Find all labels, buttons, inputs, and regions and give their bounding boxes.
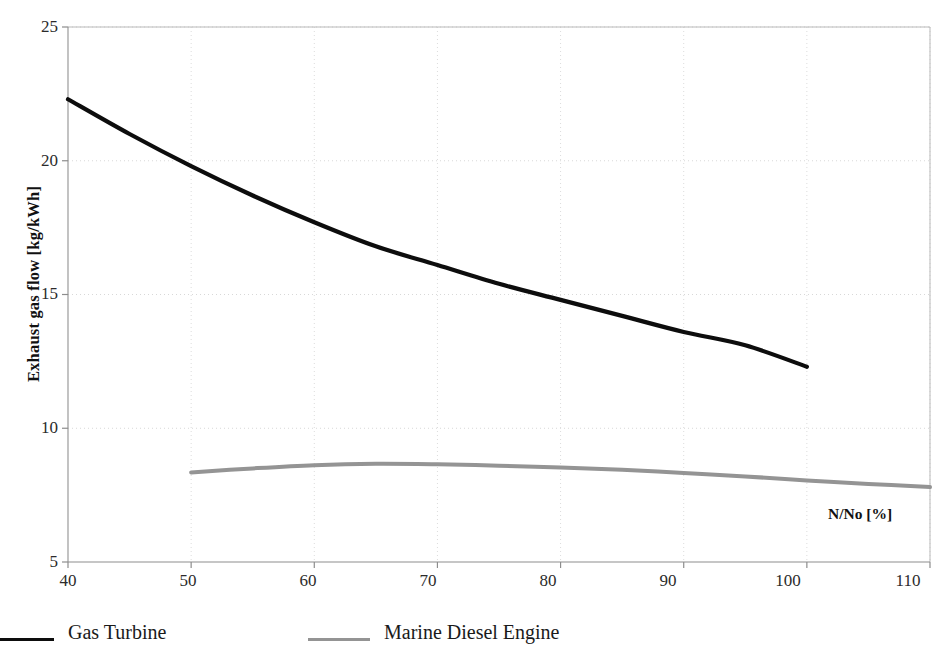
chart-figure: Exhaust gas flow [kg/kWh] 25 20 15 10 5 … [0,0,949,655]
tick-marks [62,27,930,568]
legend-item-gas-turbine: Gas Turbine [0,618,166,646]
horizontal-gridlines [68,27,930,428]
legend-item-marine-diesel-engine: Marine Diesel Engine [308,618,560,646]
x-axis-annotation: N/No [%] [828,505,892,523]
plot-area [0,0,949,655]
legend-item-label: Gas Turbine [68,621,166,644]
legend-item-label: Marine Diesel Engine [384,621,560,644]
data-series-layer [68,99,930,487]
legend-swatch-icon [308,638,370,641]
legend-swatch-icon [0,638,54,641]
chart-legend: Gas Turbine Marine Diesel Engine [0,618,949,655]
